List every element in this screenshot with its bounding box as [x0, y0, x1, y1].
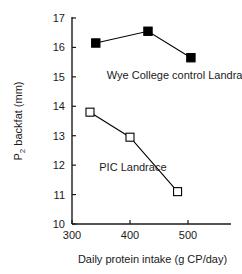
- x-tick-label-400: 400: [121, 229, 139, 241]
- series-label-0: Wye College control Landrace: [107, 69, 242, 81]
- y-axis-title: P2 backfat (mm): [12, 81, 27, 160]
- series-label-1: PIC Landrace: [99, 161, 166, 173]
- data-point-0-1[interactable]: [144, 27, 152, 35]
- x-tick-label-500: 500: [179, 229, 197, 241]
- y-tick-label-16: 16: [53, 41, 65, 53]
- y-tick-label-15: 15: [53, 71, 65, 83]
- chart-canvas: 1011121314151617300400500Daily protein i…: [0, 0, 242, 274]
- data-point-1-0[interactable]: [86, 108, 94, 116]
- data-point-1-2[interactable]: [174, 188, 182, 196]
- data-point-1-1[interactable]: [126, 133, 134, 141]
- figure-container: 1011121314151617300400500Daily protein i…: [0, 0, 242, 274]
- x-tick-label-300: 300: [63, 229, 81, 241]
- y-tick-label-11: 11: [54, 189, 65, 201]
- y-tick-label-14: 14: [53, 100, 65, 112]
- x-axis-title: Daily protein intake (g CP/day): [78, 253, 227, 265]
- data-point-0-0[interactable]: [92, 39, 100, 47]
- data-point-0-2[interactable]: [187, 54, 195, 62]
- y-tick-label-12: 12: [53, 159, 65, 171]
- y-tick-label-13: 13: [53, 130, 65, 142]
- series-line-1: [90, 112, 178, 191]
- y-tick-label-17: 17: [53, 12, 65, 24]
